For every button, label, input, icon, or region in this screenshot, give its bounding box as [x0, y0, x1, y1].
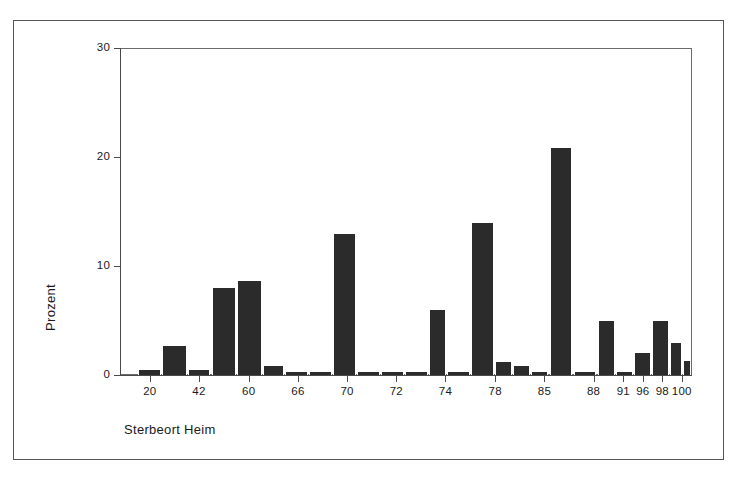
x-axis-tick-label: 42	[179, 385, 219, 398]
histogram-chart: 3020100 20426066707274788588919698100 Pr…	[0, 0, 738, 477]
y-axis-tick	[114, 266, 121, 267]
bar	[634, 353, 651, 375]
x-axis-tick-label: 85	[524, 385, 564, 398]
y-axis-tick	[114, 375, 121, 376]
bar	[616, 372, 633, 375]
bar	[138, 370, 161, 375]
bar	[162, 346, 187, 375]
bar	[574, 372, 597, 375]
bar	[333, 234, 356, 375]
bar	[447, 372, 470, 375]
bar	[531, 372, 548, 375]
x-axis-tick	[643, 376, 644, 382]
bar	[237, 281, 262, 375]
x-axis-tick	[662, 376, 663, 382]
x-axis-tick	[199, 376, 200, 382]
x-axis-tick-label: 78	[475, 385, 515, 398]
x-axis-tick-label: 72	[376, 385, 416, 398]
x-axis-tick	[623, 376, 624, 382]
bar	[683, 361, 691, 375]
x-axis-tick	[495, 376, 496, 382]
bar	[471, 223, 494, 375]
x-axis-line	[120, 375, 692, 376]
x-axis-tick-label: 66	[278, 385, 318, 398]
x-axis-tick	[682, 376, 683, 382]
bar	[381, 372, 404, 375]
x-axis-tick	[396, 376, 397, 382]
bar	[670, 343, 681, 376]
x-axis-tick-label: 100	[662, 385, 702, 398]
x-axis-tick	[544, 376, 545, 382]
bar	[429, 310, 446, 375]
bar	[495, 362, 512, 375]
bar	[188, 370, 211, 375]
y-axis-tick-label: 0	[64, 369, 110, 381]
bars-layer	[121, 49, 691, 375]
x-axis-tick-label: 70	[327, 385, 367, 398]
bar	[405, 372, 428, 375]
x-axis-tick	[150, 376, 151, 382]
y-axis-tick-label: 30	[64, 42, 110, 54]
x-axis-tick	[249, 376, 250, 382]
bar	[285, 372, 308, 375]
x-axis-tick-label: 20	[130, 385, 170, 398]
y-axis-tick	[114, 157, 121, 158]
y-axis-tick	[114, 48, 121, 49]
x-axis-tick	[594, 376, 595, 382]
y-axis-title: Prozent	[43, 248, 58, 368]
bar	[263, 366, 284, 375]
bar	[212, 288, 237, 375]
x-axis-tick-label: 60	[229, 385, 269, 398]
bar	[550, 148, 573, 376]
x-axis-tick	[347, 376, 348, 382]
x-axis-tick	[298, 376, 299, 382]
x-axis-title: Sterbeort Heim	[124, 422, 216, 437]
bar	[652, 321, 669, 375]
bar	[513, 366, 530, 375]
y-axis-tick-label: 20	[64, 151, 110, 163]
x-axis-tick-label: 74	[425, 385, 465, 398]
x-axis-tick	[445, 376, 446, 382]
bar	[357, 372, 380, 375]
y-axis-tick-label: 10	[64, 260, 110, 272]
bar	[598, 321, 615, 375]
bar	[309, 372, 332, 375]
